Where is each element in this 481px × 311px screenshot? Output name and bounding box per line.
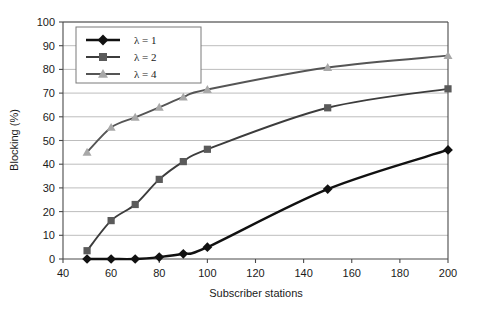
data-point [132,201,139,208]
y-tick-label: 30 [43,182,55,194]
data-point [444,85,451,92]
x-tick-label: 140 [294,267,312,279]
y-tick-label: 60 [43,111,55,123]
y-tick-label: 10 [43,229,55,241]
data-point [108,217,115,224]
x-tick-label: 200 [439,267,457,279]
y-tick-label: 20 [43,206,55,218]
y-axis-title: Blocking (%) [8,109,20,171]
y-tick-label: 70 [43,87,55,99]
data-point [83,247,90,254]
legend-label: λ = 4 [134,68,157,80]
y-tick-label: 50 [43,135,55,147]
data-point [156,176,163,183]
y-tick-label: 90 [43,40,55,52]
x-tick-label: 160 [343,267,361,279]
legend-label: λ = 1 [134,34,157,46]
x-tick-label: 80 [153,267,165,279]
data-point [204,146,211,153]
x-tick-label: 100 [198,267,216,279]
x-tick-label: 60 [105,267,117,279]
chart-figure: 0102030405060708090100 40608010012014016… [0,0,481,311]
x-tick-label: 40 [57,267,69,279]
y-tick-label: 40 [43,158,55,170]
chart-legend: λ = 1λ = 2λ = 4 [76,27,201,83]
x-axis-title: Subscriber stations [209,287,303,299]
chart-background [0,0,481,311]
line-chart: 0102030405060708090100 40608010012014016… [0,0,481,311]
y-tick-label: 80 [43,63,55,75]
data-point [324,104,331,111]
legend-label: λ = 2 [134,51,157,63]
x-tick-label: 180 [391,267,409,279]
x-tick-label: 120 [246,267,264,279]
x-tick-labels: 406080100120140160180200 [57,267,457,279]
y-tick-label: 100 [37,16,55,28]
legend-marker [99,53,107,61]
y-tick-label: 0 [49,253,55,265]
data-point [180,158,187,165]
